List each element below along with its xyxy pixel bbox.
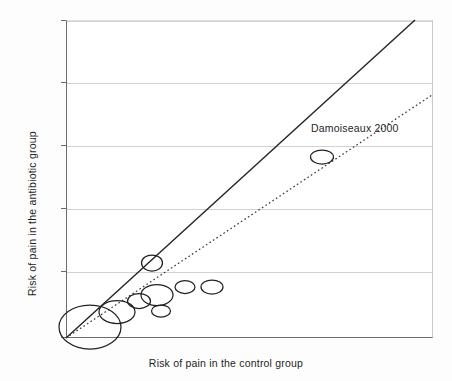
chart-root: Risk of pain in the antibiotic group 100… (0, 0, 452, 381)
ytick-mark-80 (61, 82, 66, 83)
gridline-100 (67, 21, 432, 22)
plot-area (66, 20, 433, 338)
gridline-80 (67, 83, 432, 84)
gridline-20 (67, 272, 432, 273)
x-axis-title: Risk of pain in the control group (0, 357, 452, 369)
ytick-mark-60 (61, 145, 66, 146)
ytick-mark-0 (61, 337, 66, 338)
gridline-40 (67, 209, 432, 210)
ytick-mark-100 (61, 20, 66, 21)
y-axis-title: Risk of pain in the antibiotic group (26, 131, 38, 296)
ytick-mark-40 (61, 208, 66, 209)
ytick-mark-20 (61, 271, 66, 272)
annotation-damoiseaux: Damoiseaux 2000 (311, 122, 399, 134)
gridline-60 (67, 146, 432, 147)
